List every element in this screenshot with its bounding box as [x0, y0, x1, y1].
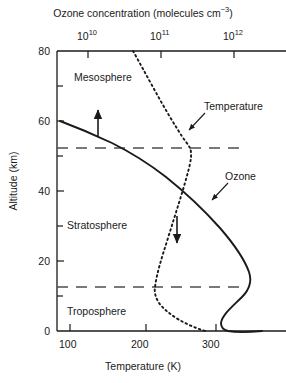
top-axis-ticks — [88, 51, 234, 58]
ozone-leader-arrow — [212, 183, 228, 200]
y-axis-ticks — [57, 86, 64, 296]
axis-frame — [57, 51, 286, 331]
atmosphere-profile-figure: Ozone concentration (molecules cm−3) 101… — [0, 0, 286, 383]
ozone-curve — [60, 121, 262, 332]
plot-canvas — [0, 0, 286, 383]
temperature-leader-arrow — [189, 113, 205, 130]
temperature-curve — [133, 51, 205, 331]
